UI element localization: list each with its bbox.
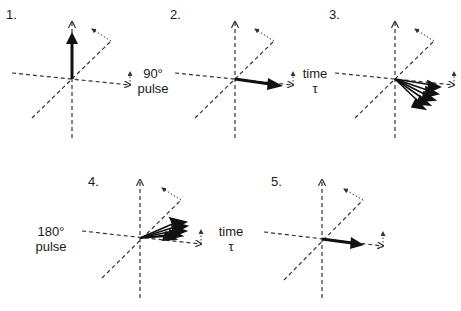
panel-number-1: 1. [6, 7, 17, 22]
transition-label-line1: time [214, 224, 248, 239]
transition-time-tau-2: time τ [214, 224, 248, 254]
transition-label-line1: time [298, 66, 332, 81]
transition-label-line2: τ [214, 239, 248, 254]
spin-echo-diagram [0, 0, 461, 311]
transition-180-pulse: 180° pulse [31, 224, 71, 254]
panel-4-refocusing-spins [140, 218, 187, 240]
transition-label-line1: 90° [134, 66, 172, 81]
panel-2-axes [175, 22, 293, 138]
panel-1-magnetization-arrow [66, 32, 78, 79]
transition-90-pulse: 90° pulse [134, 66, 172, 96]
panel-1-rotation-icon [92, 29, 130, 85]
transition-label-line2: pulse [134, 81, 172, 96]
panel-number-4: 4. [88, 174, 99, 189]
panel-5-echo-arrow [322, 237, 364, 249]
panel-3-dephasing-spins [395, 79, 440, 109]
panel-number-3: 3. [329, 7, 340, 22]
panel-number-5: 5. [271, 174, 282, 189]
panel-number-2: 2. [170, 7, 181, 22]
panel-2-magnetization-arrow [235, 78, 283, 90]
panel-3-rotation-icon [415, 29, 454, 85]
panel-3-axes [335, 22, 454, 138]
transition-label-line1: 180° [31, 224, 71, 239]
panel-5-rotation-icon [344, 189, 383, 246]
panel-4-axes [82, 180, 201, 298]
transition-label-line2: τ [298, 81, 332, 96]
transition-time-tau-1: time τ [298, 66, 332, 96]
panel-2-rotation-icon [255, 29, 293, 85]
transition-label-line2: pulse [31, 239, 71, 254]
